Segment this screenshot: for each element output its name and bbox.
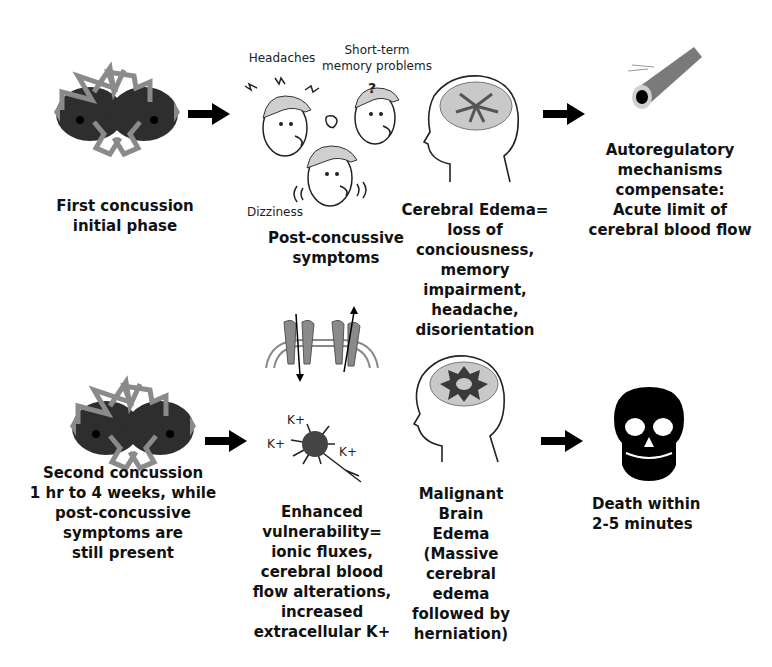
arrow-right-icon (541, 430, 583, 452)
autoregulatory-label: Autoregulatory mechanisms compensate: Ac… (585, 140, 755, 240)
ion-label-k-plus: K+ (284, 412, 308, 428)
second-concussion-label: Second concussion 1 hr to 4 weeks, while… (18, 463, 228, 563)
cerebral-edema-label: Cerebral Edema= loss of conciousness, me… (395, 200, 555, 340)
dizzy-faces-icon (245, 78, 415, 218)
blood-vessel-icon (628, 45, 708, 115)
dizziness-annotation: Dizziness (240, 204, 310, 220)
death-label: Death within 2-5 minutes (592, 494, 712, 534)
arrow-right-icon (205, 430, 247, 452)
first-concussion-label: First concussion initial phase (40, 196, 210, 236)
memory-annotation: Short-term memory problems (322, 42, 432, 74)
post-concussive-label: Post-concussive symptoms (266, 228, 406, 268)
ion-channel-icon (262, 310, 382, 385)
colliding-helmets-icon (68, 376, 198, 476)
neuron-icon (285, 420, 375, 495)
question-mark: ? (362, 80, 382, 96)
ion-label-k-plus: K+ (336, 444, 360, 460)
ion-label-k-plus: K+ (264, 436, 288, 452)
skull-icon (612, 385, 687, 483)
arrow-right-icon (188, 103, 230, 125)
swollen-brain-head-icon (420, 72, 530, 187)
colliding-helmets-icon (52, 62, 182, 162)
headaches-annotation: Headaches (242, 50, 322, 66)
malignant-edema-label: Malignant Brain Edema (Massive cerebral … (396, 484, 526, 644)
massive-edema-head-icon (404, 352, 514, 467)
arrow-right-icon (543, 103, 585, 125)
enhanced-vulnerability-label: Enhanced vulnerability= ionic fluxes, ce… (252, 502, 392, 642)
